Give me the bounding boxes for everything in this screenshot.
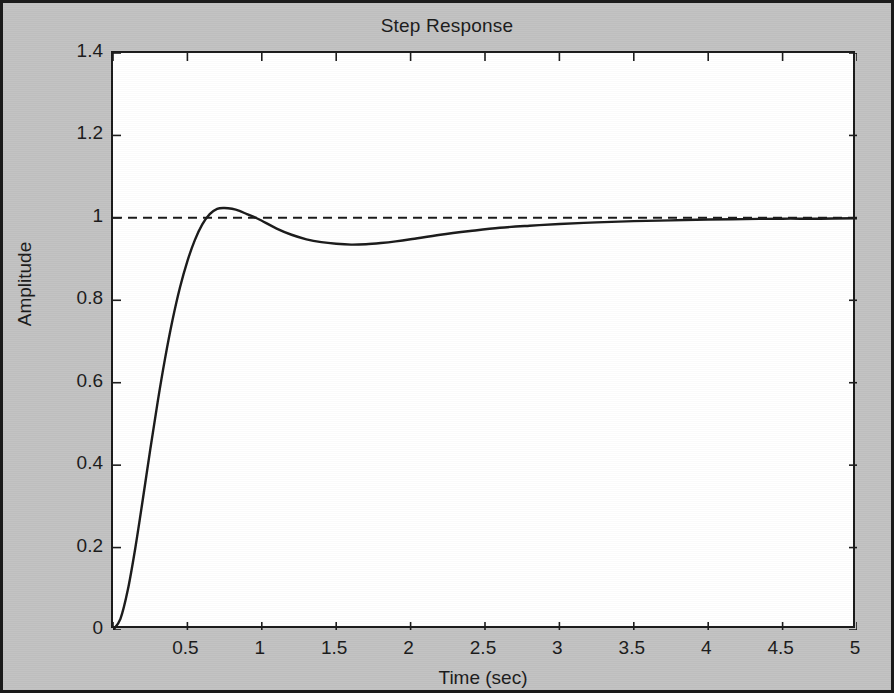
figure-window: Step Response 00.20.40.60.811.21.4 0.511…: [0, 0, 894, 693]
x-tick-label: 4: [671, 637, 741, 659]
y-tick-label: 0.2: [43, 535, 103, 557]
x-tick-label: 0.5: [150, 637, 220, 659]
y-tick-label: 0.4: [43, 452, 103, 474]
x-tick-label: 3: [522, 637, 592, 659]
step-response-curve: [113, 208, 857, 630]
y-tick-label: 1: [43, 205, 103, 227]
x-tick-label: 2.5: [448, 637, 518, 659]
x-tick-label: 1.5: [299, 637, 369, 659]
x-tick-label: 4.5: [746, 637, 816, 659]
y-tick-label: 0: [43, 617, 103, 639]
x-tick-label: 1: [225, 637, 295, 659]
x-tick-label: 3.5: [597, 637, 667, 659]
y-tick-label: 0.6: [43, 370, 103, 392]
y-axis-tick-labels: 00.20.40.60.811.21.4: [35, 51, 103, 628]
plot-svg: [113, 53, 857, 630]
chart-title: Step Response: [3, 15, 891, 37]
x-tick-label: 5: [820, 637, 890, 659]
plot-area: [111, 51, 855, 628]
y-tick-label: 0.8: [43, 287, 103, 309]
y-tick-label: 1.4: [43, 40, 103, 62]
x-axis-label: Time (sec): [111, 667, 855, 689]
y-tick-label: 1.2: [43, 122, 103, 144]
tick-marks: [113, 53, 857, 630]
y-axis-label: Amplitude: [14, 184, 36, 384]
x-axis-tick-labels: 0.511.522.533.544.55: [111, 637, 855, 663]
x-tick-label: 2: [374, 637, 444, 659]
